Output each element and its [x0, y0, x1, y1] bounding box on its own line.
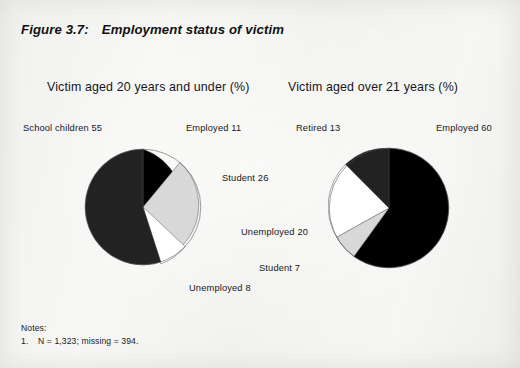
- label-employed-60: Employed 60: [436, 123, 492, 133]
- label-unemployed-20: Unemployed 20: [241, 227, 308, 237]
- figure-title: Figure 3.7:Employment status of victim: [21, 22, 284, 37]
- pie-chart-victims-20-and-under: [84, 148, 202, 266]
- notes-block: Notes: 1.N = 1,323; missing = 394.: [21, 322, 138, 349]
- pie-right-svg: [328, 147, 450, 269]
- note-item-1-number: 1.: [21, 335, 38, 348]
- chart-subtitle-left: Victim aged 20 years and under (%): [47, 80, 250, 94]
- chart-subtitle-right: Victim aged over 21 years (%): [288, 80, 458, 94]
- note-item-1: 1.N = 1,323; missing = 394.: [21, 335, 138, 348]
- figure-title-text: Employment status of victim: [102, 22, 284, 37]
- note-item-1-text: N = 1,323; missing = 394.: [38, 336, 138, 346]
- notes-heading: Notes:: [21, 322, 138, 335]
- label-student-26: Student 26: [222, 173, 268, 183]
- pie-chart-victims-over-21: [328, 147, 450, 269]
- figure-page: Figure 3.7:Employment status of victim V…: [0, 0, 520, 368]
- label-student-7: Student 7: [259, 263, 300, 273]
- pie-left-svg: [84, 148, 202, 266]
- label-employed-11: Employed 11: [186, 123, 241, 133]
- figure-number: Figure 3.7:: [21, 22, 89, 37]
- label-unemployed-8: Unemployed 8: [189, 283, 251, 293]
- label-retired-13: Retired 13: [296, 123, 340, 133]
- label-school-children-55: School children 55: [23, 123, 102, 133]
